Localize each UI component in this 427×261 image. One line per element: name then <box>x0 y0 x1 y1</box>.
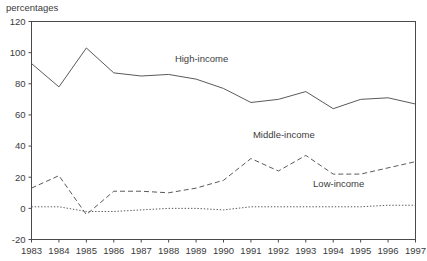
x-axis-tick-label: 1996 <box>378 245 399 256</box>
x-axis-tick-label: 1984 <box>48 245 69 256</box>
x-axis-tick-label: 1987 <box>131 245 152 256</box>
x-axis-tick-label: 1986 <box>103 245 124 256</box>
y-axis-tick-label: 40 <box>15 140 26 151</box>
y-axis-tick-label: -20 <box>12 234 26 245</box>
y-axis-tick-label: 80 <box>15 78 26 89</box>
y-axis-title: percentages <box>6 2 59 13</box>
series-label-group: High-incomeMiddle-incomeLow-income <box>175 53 364 189</box>
y-axis-tick-label: 120 <box>10 16 26 27</box>
x-axis-tick-label: 1990 <box>213 245 234 256</box>
y-axis-tick-label: 0 <box>20 203 25 214</box>
y-axis-tick-label: 100 <box>10 47 26 58</box>
chart-container: percentages 120100806040200-20 198319841… <box>0 0 427 261</box>
x-axis-tick-label: 1995 <box>350 245 371 256</box>
x-axis-tick-label: 1997 <box>405 245 426 256</box>
series-label-middle-income: Middle-income <box>253 129 315 140</box>
series-line-low-income <box>32 205 416 211</box>
series-label-high-income: High-income <box>175 53 228 64</box>
x-axis-tick-label: 1985 <box>76 245 97 256</box>
x-axis-tick-label: 1983 <box>21 245 42 256</box>
series-label-low-income: Low-income <box>313 178 364 189</box>
y-axis-tick-label: 20 <box>15 172 26 183</box>
x-axis-tick-label: 1992 <box>268 245 289 256</box>
x-axis-tick-label: 1994 <box>323 245 344 256</box>
series-group <box>32 48 416 215</box>
x-axis-tick-label: 1993 <box>295 245 316 256</box>
x-axis-tick-label: 1989 <box>186 245 207 256</box>
y-axis-tick-label: 60 <box>15 109 26 120</box>
x-axis-tick-label: 1988 <box>158 245 179 256</box>
x-axis-tick-label: 1991 <box>240 245 261 256</box>
line-chart: percentages 120100806040200-20 198319841… <box>0 0 427 261</box>
y-axis-tick-group: 120100806040200-20 <box>10 16 32 245</box>
x-axis-tick-group: 1983198419851986198719881989199019911992… <box>21 240 426 257</box>
